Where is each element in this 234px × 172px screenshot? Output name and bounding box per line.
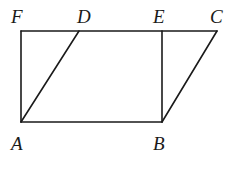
segment-ad <box>21 31 79 122</box>
label-e: E <box>152 6 165 27</box>
label-a: A <box>9 133 23 154</box>
label-b: B <box>153 133 165 154</box>
label-c: C <box>210 6 223 27</box>
segment-bc <box>162 31 217 122</box>
label-f: F <box>10 6 23 27</box>
label-d: D <box>76 6 91 27</box>
geometry-figure: F D E C A B <box>0 0 234 172</box>
